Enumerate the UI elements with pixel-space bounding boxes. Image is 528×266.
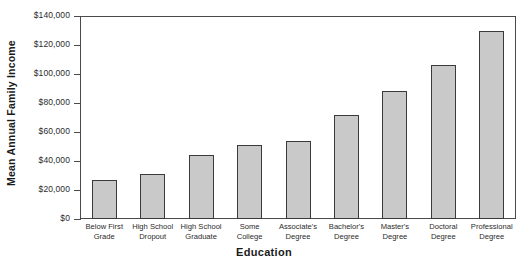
y-axis-tick-label: $80,000 [39, 97, 70, 107]
bar [382, 91, 407, 219]
bar-chart: Mean Annual Family Income $0$20,000$40,0… [0, 0, 528, 266]
y-axis-title: Mean Annual Family Income [0, 0, 22, 226]
bar [237, 145, 262, 219]
y-axis-tick-label: $140,000 [34, 10, 70, 20]
x-axis-title: Education [0, 246, 528, 258]
bar [431, 65, 456, 219]
y-axis-title-text: Mean Annual Family Income [5, 40, 17, 186]
y-axis-tick-label: $60,000 [39, 126, 70, 136]
y-axis-tick-label: $0 [60, 213, 70, 223]
x-axis-tick-label: ProfessionalDegree [464, 222, 520, 241]
bar [189, 155, 214, 219]
y-axis-tick-label: $40,000 [39, 155, 70, 165]
bar [334, 115, 359, 219]
bar [92, 180, 117, 219]
y-axis-tick-label: $100,000 [34, 68, 70, 78]
x-axis-tick-label-line: Degree [464, 232, 520, 242]
bar [286, 141, 311, 219]
bar [479, 31, 504, 220]
y-axis-tick-label: $20,000 [39, 184, 70, 194]
y-axis-tick-label: $120,000 [34, 39, 70, 49]
bars-layer [80, 16, 516, 219]
x-axis-tick-labels: Below FirstGradeHigh SchoolDropoutHigh S… [80, 222, 516, 248]
bar [140, 174, 165, 219]
x-axis-tick-label-line: Professional [464, 222, 520, 232]
